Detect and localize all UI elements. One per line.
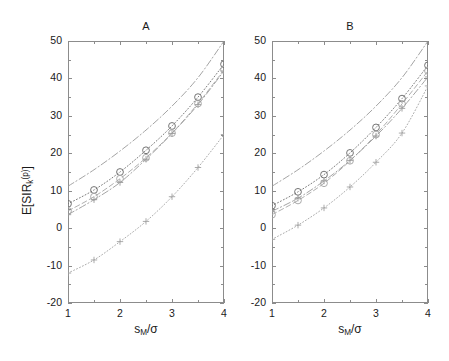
panel-b-marker-lower-plus-dotted-3: [347, 184, 353, 190]
panel-b-xtick-3: [376, 299, 377, 303]
panel-b-xtick-top-4: [428, 41, 429, 45]
panel-b-ytick-minor-right--15: [425, 284, 428, 285]
panel-b-xtick-top-3: [376, 41, 377, 45]
panel-b-ytick-right-30: [424, 116, 428, 117]
panel-b-xtick-label-4: 4: [413, 307, 443, 319]
panel-b-ytick-minor-left-45: [272, 60, 275, 61]
panel-b-ytick-minor-left-35: [272, 97, 275, 98]
panel-b-marker-analysis-plus-dashdot-2: [321, 178, 327, 184]
panel-b-xtick-4: [428, 299, 429, 303]
panel-b-xtick-label-1: 1: [257, 307, 287, 319]
panel-b-ytick-minor-right-35: [425, 97, 428, 98]
panel-b-ytick--10: [272, 266, 276, 267]
panel-b-ytick-20: [272, 153, 276, 154]
panel-b-xtick-minor-bottom-3.5: [402, 300, 403, 303]
panel-b-ytick-right-20: [424, 153, 428, 154]
panel-b-xtick-minor-top-1.5: [298, 41, 299, 44]
panel-b-ytick-right-40: [424, 78, 428, 79]
panel-b-ytick-minor-right-5: [425, 209, 428, 210]
panel-b-xtick-1: [272, 299, 273, 303]
panel-b-ytick-minor-left-5: [272, 209, 275, 210]
panel-b-xtick-minor-top-2.5: [350, 41, 351, 44]
panel-b-ytick-0: [272, 228, 276, 229]
panel-b-ytick-minor-right--5: [425, 247, 428, 248]
panel-b-ytick-10: [272, 191, 276, 192]
panel-b-ytick-minor-left--15: [272, 284, 275, 285]
panel-b-ytick-right--10: [424, 266, 428, 267]
panel-b-ytick-minor-right-15: [425, 172, 428, 173]
panel-b-ytick-right--20: [424, 303, 428, 304]
panel-b-xtick-top-2: [324, 41, 325, 45]
panel-b-marker-lower-plus-dotted-5: [399, 130, 405, 136]
panel-b-xtick-minor-top-3.5: [402, 41, 403, 44]
panel-b-ytick-minor-right-45: [425, 60, 428, 61]
yaxis-label: E[SIRk(p)]: [20, 166, 34, 215]
panel-b-marker-analysis-circle-dotted-3: [347, 150, 354, 157]
panel-b-ytick-right-0: [424, 228, 428, 229]
panel-b-ytick-label-50: 50: [230, 34, 266, 46]
panel-b-marker-analysis-plus-dashdot-1: [295, 195, 301, 201]
panel-b-marker-lower-plus-dotted-6: [425, 83, 431, 89]
panel-b-ytick-40: [272, 78, 276, 79]
panel-b: B 50403020100-10-201234 sM/σ: [0, 0, 449, 361]
panel-b-ytick-30: [272, 116, 276, 117]
panel-b-ytick--20: [272, 303, 276, 304]
panel-b-ytick-label-20: 20: [230, 146, 266, 158]
panel-b-ytick-minor-left-25: [272, 135, 275, 136]
panel-b-ytick-label-30: 30: [230, 109, 266, 121]
figure-root: A 50403020100-10-201234 sM/σ B 504030201…: [0, 0, 449, 361]
panel-b-series-group: [269, 41, 432, 243]
panel-b-marker-lower-plus-dotted-4: [373, 159, 379, 165]
panel-b-ytick-label-0: 0: [230, 221, 266, 233]
panel-b-ytick-minor-right-25: [425, 135, 428, 136]
panel-b-ytick-label-10: 10: [230, 184, 266, 196]
panel-b-ytick-minor-left--5: [272, 247, 275, 248]
panel-b-xaxis-label: sM/σ: [272, 322, 428, 336]
panel-b-marker-lower-plus-dotted-1: [295, 222, 301, 228]
panel-b-ytick-label--10: -10: [230, 259, 266, 271]
panel-b-ytick-right-10: [424, 191, 428, 192]
panel-b-marker-lower-plus-dotted-0: [269, 236, 275, 242]
panel-b-xtick-label-3: 3: [361, 307, 391, 319]
panel-b-xtick-minor-bottom-1.5: [298, 300, 299, 303]
panel-b-xtick-minor-bottom-2.5: [350, 300, 351, 303]
panel-b-ytick-label-40: 40: [230, 71, 266, 83]
panel-b-xtick-label-2: 2: [309, 307, 339, 319]
panel-b-xtick-2: [324, 299, 325, 303]
panel-b-ytick-minor-left-15: [272, 172, 275, 173]
panel-b-xtick-top-1: [272, 41, 273, 45]
panel-b-marker-lower-plus-dotted-2: [321, 205, 327, 211]
